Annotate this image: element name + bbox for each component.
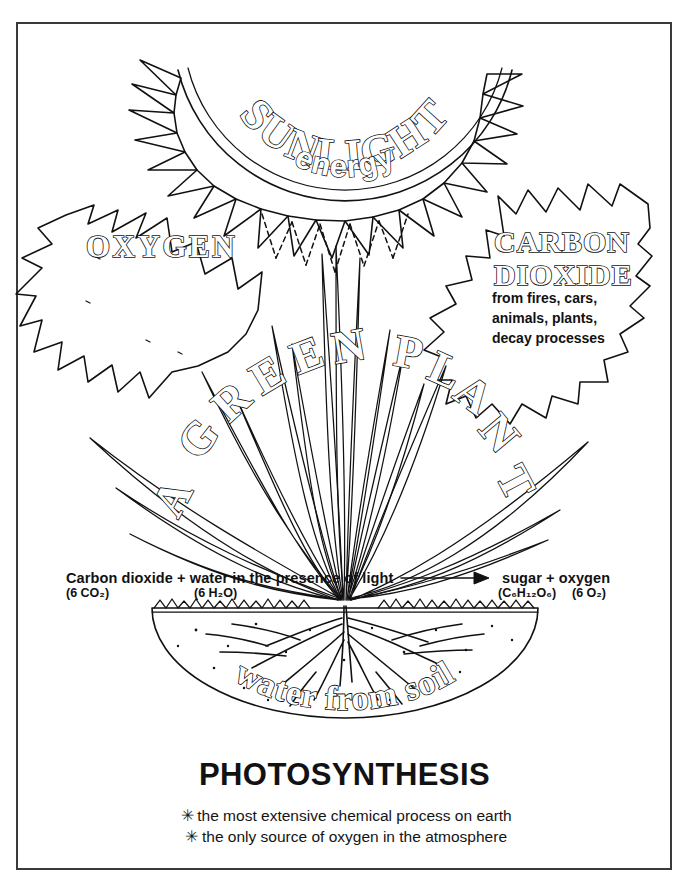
list-item-label: the only source of oxygen in the atmosph… <box>202 828 507 845</box>
equation-product-2-formula: (6 O₂) <box>572 586 606 600</box>
equation-products: sugar + oxygen <box>502 570 610 586</box>
footer-bullet-list: ✳the most extensive chemical process on … <box>0 805 689 847</box>
letter-G: G <box>167 409 229 469</box>
carbon-dioxide-note: from fires, cars, animals, plants, decay… <box>492 288 605 348</box>
list-item-label: the most extensive chemical process on e… <box>197 807 511 824</box>
co2-note-line-3: decay processes <box>492 328 605 348</box>
photosynthesis-illustration: SUNLIGHT energy OXYGEN CARBON DIOXIDE <box>0 0 689 883</box>
letter-N: N <box>328 318 370 374</box>
soil-surface-hatching <box>152 599 538 612</box>
oxygen-label: OXYGEN <box>86 229 237 264</box>
letter-E2: E <box>283 326 330 385</box>
carbon-label: CARBON <box>494 225 630 258</box>
letter-P: P <box>390 325 427 380</box>
letter-A: A <box>142 471 203 524</box>
co2-note-line-1: from fires, cars, <box>492 288 605 308</box>
list-item: ✳the most extensive chemical process on … <box>0 805 689 826</box>
equation-product-1-formula: (C₆H₁₂O₆) <box>498 586 556 600</box>
equation-reactants: Carbon dioxide + water in the presence o… <box>66 570 393 586</box>
page-title: PHOTOSYNTHESIS <box>0 757 689 793</box>
equation-arrow <box>401 572 489 584</box>
oxygen-arrow-group: OXYGEN <box>16 205 262 398</box>
asterisk-icon: ✳ <box>182 826 202 847</box>
soil-group: water from soil <box>152 599 538 718</box>
equation-reactant-2-formula: (6 H₂O) <box>194 586 237 600</box>
diagram-canvas: SUNLIGHT energy OXYGEN CARBON DIOXIDE <box>0 0 689 883</box>
asterisk-icon: ✳ <box>177 805 197 826</box>
list-item: ✳the only source of oxygen in the atmosp… <box>0 826 689 847</box>
letter-E1: E <box>241 345 294 405</box>
sun-dotted-rays <box>262 214 408 272</box>
dioxide-label: DIOXIDE <box>494 258 633 291</box>
co2-note-line-2: animals, plants, <box>492 308 605 328</box>
equation-reactant-1-formula: (6 CO₂) <box>66 586 109 600</box>
